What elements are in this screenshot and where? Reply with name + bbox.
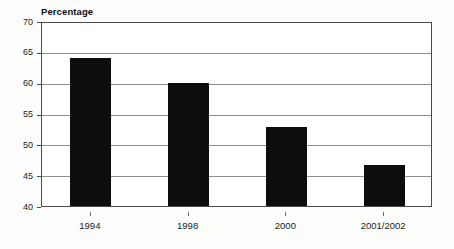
bar — [364, 165, 405, 206]
y-tick-label: 40 — [23, 203, 33, 212]
y-tick-label: 50 — [23, 141, 33, 150]
bar-chart-figure: Percentage 40455055606570 19941998200020… — [0, 0, 454, 249]
x-tick-mark — [188, 212, 189, 216]
bar — [70, 58, 111, 206]
y-tick-label: 45 — [23, 172, 33, 181]
y-tick-label: 55 — [23, 110, 33, 119]
x-tick-mark — [90, 212, 91, 216]
x-tick-label: 1998 — [177, 220, 198, 231]
y-tick-label: 60 — [23, 79, 33, 88]
gridline — [42, 53, 431, 54]
x-tick-mark — [383, 212, 384, 216]
bar — [168, 83, 209, 206]
x-tick-label: 2000 — [275, 220, 296, 231]
x-tick-mark — [285, 212, 286, 216]
y-tick-label: 65 — [23, 48, 33, 57]
x-tick-label: 1994 — [79, 220, 100, 231]
y-axis: 40455055606570 — [0, 0, 41, 249]
x-axis: 1994199820002001/2002 — [41, 212, 432, 232]
x-tick-label: 2001/2002 — [361, 220, 406, 231]
y-tick-label: 70 — [23, 18, 33, 27]
chart-title: Percentage — [41, 6, 93, 17]
plot-area — [41, 22, 432, 207]
bar — [266, 127, 307, 206]
y-tick-mark — [37, 207, 41, 208]
